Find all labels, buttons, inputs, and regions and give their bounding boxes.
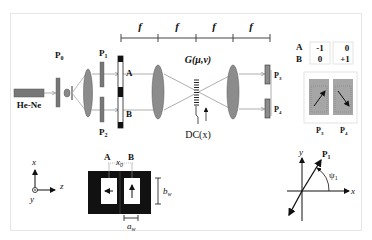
detector-label: DC(x) xyxy=(185,129,211,141)
svg-text:+1: +1 xyxy=(340,54,350,64)
box-p4-label: P4 xyxy=(340,126,348,136)
polarization-angle-axes: x y P1 ψ1 xyxy=(287,147,355,221)
aperture-b-label: B xyxy=(126,109,132,119)
polarizer-p0 xyxy=(56,78,60,107)
focal-label: f xyxy=(175,20,180,32)
svg-text:0: 0 xyxy=(318,54,323,64)
svg-text:x: x xyxy=(350,186,355,196)
p0-label: P0 xyxy=(55,50,64,61)
svg-text:y: y xyxy=(298,147,303,157)
laser-label: He-Ne xyxy=(17,100,42,110)
focal-length-ruler: f f f f xyxy=(121,20,270,42)
svg-text:A: A xyxy=(296,42,303,52)
box-p3-label: P3 xyxy=(316,126,324,136)
polarizer-p1 xyxy=(100,62,104,87)
collimating-lens xyxy=(84,69,93,117)
svg-text:0: 0 xyxy=(345,43,350,53)
psi-label: ψ1 xyxy=(329,170,338,181)
detector-p3 xyxy=(265,65,270,84)
optical-setup-diagram: f f f f He-Ne P0 P1 P2 A B xyxy=(0,0,372,240)
detector-p4 xyxy=(265,99,270,118)
x0-label: x0 xyxy=(115,157,123,168)
focal-label: f xyxy=(138,20,143,32)
p1-label: P1 xyxy=(99,48,108,59)
polarizer-p2 xyxy=(100,97,104,122)
mask-b-label: B xyxy=(128,152,134,162)
aperture-mask xyxy=(118,56,123,128)
svg-text:y: y xyxy=(29,194,34,204)
laser-tube xyxy=(14,89,44,97)
p1-vector-label: P1 xyxy=(322,149,331,160)
mask-detail xyxy=(88,163,161,221)
p4-side-label: P4 xyxy=(274,105,282,115)
svg-text:z: z xyxy=(59,181,64,191)
p2-label: P2 xyxy=(99,127,108,138)
aw-label: aw xyxy=(127,221,136,232)
detector-polarizer-boxes xyxy=(304,72,357,123)
svg-text:-1: -1 xyxy=(316,43,324,53)
grating xyxy=(194,79,199,124)
bw-label: bw xyxy=(163,186,172,197)
aperture-a-label: A xyxy=(126,68,133,78)
polarization-table: A B -1 0 0 +1 xyxy=(296,42,353,64)
fourier-lens-1 xyxy=(152,65,164,119)
mask-a-label: A xyxy=(104,152,111,162)
focusing-lens xyxy=(64,89,70,97)
grating-label: G(μ,ν) xyxy=(185,54,211,66)
svg-text:B: B xyxy=(296,54,302,64)
focal-label: f xyxy=(212,20,217,32)
svg-text:x: x xyxy=(31,157,36,167)
p3-side-label: P3 xyxy=(274,71,282,81)
coordinate-axes-xyz: x z y xyxy=(29,157,64,204)
fourier-lens-2 xyxy=(227,65,239,119)
focal-label: f xyxy=(249,20,254,32)
